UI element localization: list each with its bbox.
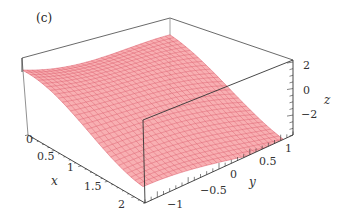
y-tick-label: 0 [230, 168, 237, 181]
x-tick-label: 0 [26, 133, 33, 146]
plot-canvas: (c) 0 0.5 1 1.5 2 x −1 −0.5 0 0.5 1 y 2 … [0, 0, 347, 220]
z-tick-label: 0 [303, 84, 310, 97]
z-tick-label: −2 [301, 108, 317, 121]
y-tick-label: −0.5 [200, 184, 227, 197]
surface [22, 35, 291, 187]
surface-plot: (c) 0 0.5 1 1.5 2 x −1 −0.5 0 0.5 1 y 2 … [0, 0, 347, 220]
x-tick-label: 2 [118, 198, 125, 211]
x-tick-label: 1.5 [84, 180, 102, 193]
z-tick-label: 2 [303, 59, 310, 72]
x-tick-label: 1 [67, 161, 74, 174]
y-axis-label: y [248, 175, 256, 189]
y-tick-label: 0.5 [259, 155, 277, 168]
y-tick-label: −1 [167, 198, 183, 211]
panel-label: (c) [36, 11, 52, 25]
x-tick-label: 0.5 [37, 150, 55, 163]
z-axis-label: z [323, 93, 331, 107]
x-axis-label: x [51, 174, 58, 188]
z-axis-ticks [287, 62, 293, 136]
y-tick-label: 1 [285, 142, 292, 155]
